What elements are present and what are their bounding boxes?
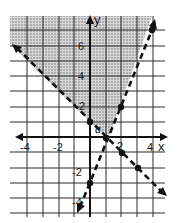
x-axis-left-arrow-icon xyxy=(15,133,23,141)
data-point xyxy=(149,27,155,33)
y-tick-label: 4 xyxy=(78,70,84,82)
data-point xyxy=(103,135,109,141)
x-tick-label: 2 xyxy=(117,140,123,152)
y-tick-label: -2 xyxy=(72,166,82,178)
y-axis-label: y xyxy=(94,12,101,27)
x-tick-label: -4 xyxy=(20,141,30,153)
x-axis-label: x xyxy=(158,139,165,154)
x-tick-label: 4 xyxy=(147,141,153,153)
y-tick-label: 2 xyxy=(79,100,85,112)
data-point xyxy=(87,180,93,186)
line-2-bottom-arrow-icon xyxy=(157,187,167,196)
inequality-graph: -4 -2 2 4 6 4 2 -2 -4 x y a xyxy=(0,0,180,223)
y-tick-label: 6 xyxy=(78,40,84,52)
data-point xyxy=(87,119,93,125)
data-point xyxy=(135,165,141,171)
x-tick-label: -2 xyxy=(53,141,63,153)
data-point xyxy=(118,104,124,110)
y-tick-label: -4 xyxy=(72,196,82,208)
region-label: a xyxy=(95,122,101,136)
